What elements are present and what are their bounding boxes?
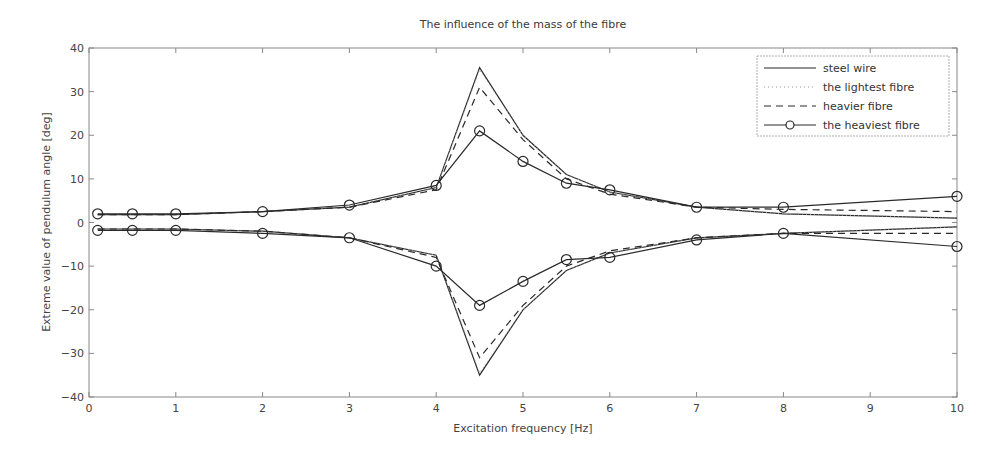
legend: steel wirethe lightest fibreheavier fibr… <box>757 56 949 136</box>
y-tick-label: 0 <box>77 217 84 230</box>
x-tick-label: 4 <box>433 402 440 415</box>
y-tick-label: −30 <box>61 347 84 360</box>
x-tick-label: 7 <box>693 402 700 415</box>
y-tick-label: −40 <box>61 391 84 404</box>
x-tick-label: 6 <box>606 402 613 415</box>
y-tick-label: 20 <box>70 129 84 142</box>
series-the-heaviest-fibre-upper <box>98 131 957 214</box>
x-tick-label: 10 <box>950 402 964 415</box>
legend-label: steel wire <box>823 62 876 75</box>
series-the-lightest-fibre-lower <box>98 227 957 373</box>
y-tick-label: −20 <box>61 304 84 317</box>
x-tick-label: 8 <box>780 402 787 415</box>
x-tick-label: 0 <box>86 402 93 415</box>
x-tick-label: 3 <box>346 402 353 415</box>
x-tick-label: 9 <box>867 402 874 415</box>
legend-label: heavier fibre <box>823 100 893 113</box>
line-chart: The influence of the mass of the fibre 0… <box>0 0 995 453</box>
y-tick-label: −10 <box>61 260 84 273</box>
series-steel-wire-lower <box>98 227 957 375</box>
x-axis-label: Excitation frequency [Hz] <box>453 422 592 435</box>
legend-label: the heaviest fibre <box>823 119 920 132</box>
y-tick-label: 30 <box>70 86 84 99</box>
x-tick-label: 2 <box>259 402 266 415</box>
x-tick-label: 5 <box>520 402 527 415</box>
y-tick-label: 40 <box>70 42 84 55</box>
y-tick-label: 10 <box>70 173 84 186</box>
series-the-heaviest-fibre-lower <box>98 230 957 305</box>
chart-title: The influence of the mass of the fibre <box>419 18 627 31</box>
legend-label: the lightest fibre <box>823 81 914 94</box>
legend-marker <box>786 121 794 129</box>
series-heavier-fibre-lower <box>98 229 957 358</box>
x-tick-label: 1 <box>172 402 179 415</box>
y-axis-label: Extreme value of pendulum angle [deg] <box>40 112 53 332</box>
